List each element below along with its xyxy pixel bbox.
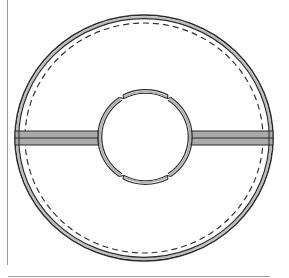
ring-diagram [0, 0, 289, 278]
inner-hub [98, 90, 192, 185]
left-spoke [15, 131, 99, 145]
right-spoke [190, 131, 273, 145]
